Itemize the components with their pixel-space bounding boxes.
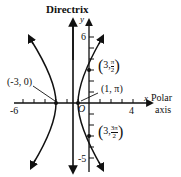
point-label-3-3pi-over-2: (3,3π2) — [98, 124, 123, 140]
hyperbola-left-branch — [31, 40, 56, 164]
graph-canvas — [0, 0, 181, 177]
polar-label: Polar — [151, 93, 172, 103]
x-tick-neg6: -6 — [10, 106, 18, 116]
y-axis-label: y — [80, 15, 84, 24]
point-label-1-pi: (1, π) — [101, 84, 123, 94]
hyperbola-diagram: Directrix y 6 -5 -6 4 O x Polar axis (-3… — [0, 0, 181, 177]
y-tick-6: 6 — [81, 32, 86, 42]
origin-label: O — [78, 104, 85, 114]
point-neg3-0 — [54, 101, 58, 105]
y-tick-neg5: -5 — [78, 154, 86, 164]
point-label-neg3-0: (-3, 0) — [7, 77, 32, 87]
axis-label: axis — [155, 105, 171, 115]
point-3-pi-over-2 — [87, 68, 91, 72]
point-label-3-pi-over-2: (3,π2) — [98, 58, 120, 74]
x-tick-4: 4 — [129, 106, 134, 116]
point-3-3pi-over-2 — [87, 134, 91, 138]
x-axis-label: x — [144, 94, 148, 103]
